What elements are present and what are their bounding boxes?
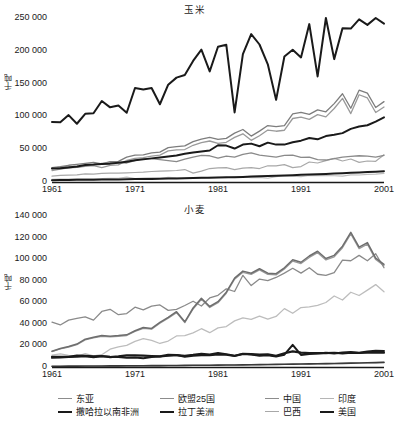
legend-entry-label: 撒哈拉以南非洲 xyxy=(76,405,139,418)
series-line xyxy=(52,345,384,358)
series-line xyxy=(52,254,384,325)
legend-line-swatch-icon xyxy=(58,411,72,413)
legend-entry: 巴西 xyxy=(265,405,301,418)
plot-area-wheat xyxy=(0,202,389,388)
legend-entry-label: 中国 xyxy=(283,392,301,405)
x-axis-tick-label: 1981 xyxy=(206,184,230,194)
legend-line-swatch-icon xyxy=(320,398,334,399)
legend-entry-label: 拉丁美洲 xyxy=(178,405,214,418)
legend-entry: 欧盟25国 xyxy=(160,392,215,405)
x-axis-tick-label: 1971 xyxy=(123,369,147,379)
series-line xyxy=(52,153,384,169)
legend-line-swatch-icon xyxy=(265,411,279,412)
legend-entry: 撒哈拉以南非洲 xyxy=(58,405,139,418)
x-axis-tick-label: 2001 xyxy=(372,184,396,194)
legend-line-swatch-icon xyxy=(58,398,72,399)
x-axis-tick-label: 2001 xyxy=(372,369,396,379)
x-axis-tick-label: 1961 xyxy=(40,184,64,194)
legend-line-swatch-icon xyxy=(160,398,174,399)
legend-line-swatch-icon xyxy=(320,411,334,413)
plot-area-maize xyxy=(0,0,389,202)
legend-entry-label: 印度 xyxy=(338,392,356,405)
series-line xyxy=(52,362,384,366)
x-axis-tick-label: 1971 xyxy=(123,184,147,194)
legend-entry: 美国 xyxy=(320,405,356,418)
legend-entry-label: 东亚 xyxy=(76,392,94,405)
legend-entry-label: 欧盟25国 xyxy=(178,392,215,405)
series-line xyxy=(52,234,384,352)
legend-line-swatch-icon xyxy=(265,398,279,399)
legend-line-swatch-icon xyxy=(160,411,174,413)
legend-entry: 印度 xyxy=(320,392,356,405)
legend-entry: 拉丁美洲 xyxy=(160,405,214,418)
x-axis-tick-label: 1961 xyxy=(40,369,64,379)
chart-legend: 东亚欧盟25国中国印度撒哈拉以南非洲拉丁美洲巴西美国 xyxy=(0,392,389,425)
x-axis-tick-label: 1991 xyxy=(289,369,313,379)
legend-entry-label: 巴西 xyxy=(283,405,301,418)
series-line xyxy=(52,232,384,351)
legend-entry-label: 美国 xyxy=(338,405,356,418)
legend-entry: 中国 xyxy=(265,392,301,405)
chart-panel-maize: 玉米 千吨 050 000100 000150 000200 000250 00… xyxy=(0,0,389,202)
chart-panel-wheat: 小麦 千吨 020 00040 00060 00080 000100 00012… xyxy=(0,202,389,388)
legend-entry: 东亚 xyxy=(58,392,94,405)
x-axis-tick-label: 1981 xyxy=(206,369,230,379)
x-axis-tick-label: 1991 xyxy=(289,184,313,194)
